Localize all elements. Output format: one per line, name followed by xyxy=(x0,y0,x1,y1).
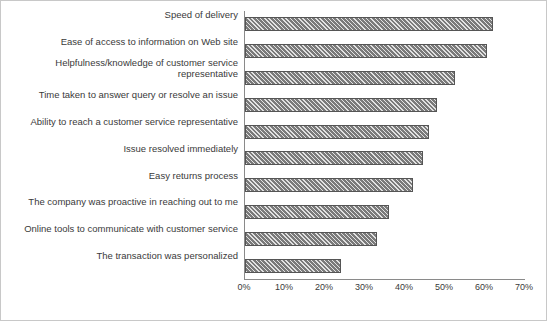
x-tick-label: 20% xyxy=(315,282,333,292)
bar xyxy=(245,178,413,192)
bar-series xyxy=(245,11,525,279)
category-row: Helpfulness/knowledge of customer servic… xyxy=(1,55,244,82)
bar xyxy=(245,98,437,112)
x-tick-label: 70% xyxy=(515,282,533,292)
category-label: Time taken to answer query or resolve an… xyxy=(39,89,244,100)
category-row: Time taken to answer query or resolve an… xyxy=(1,81,244,108)
category-label: The company was proactive in reaching ou… xyxy=(28,196,244,207)
x-tick-label: 30% xyxy=(355,282,373,292)
bar-row xyxy=(245,172,525,199)
category-label: Online tools to communicate with custome… xyxy=(24,223,244,234)
category-label: The transaction was personalized xyxy=(96,250,244,261)
category-row: Speed of delivery xyxy=(1,1,244,28)
bar xyxy=(245,205,389,219)
category-row: Issue resolved immediately xyxy=(1,135,244,162)
x-tick-label: 10% xyxy=(275,282,293,292)
category-row: Easy returns process xyxy=(1,162,244,189)
bar-row xyxy=(245,91,525,118)
category-row: Online tools to communicate with custome… xyxy=(1,215,244,242)
category-label: Helpfulness/knowledge of customer servic… xyxy=(55,57,244,79)
bar xyxy=(245,259,341,273)
bar xyxy=(245,17,493,31)
category-label: Ease of access to information on Web sit… xyxy=(61,36,244,47)
x-tick-label: 40% xyxy=(395,282,413,292)
category-row: Ease of access to information on Web sit… xyxy=(1,28,244,55)
bar xyxy=(245,125,429,139)
bar-row xyxy=(245,225,525,252)
x-tick-label: 0% xyxy=(237,282,250,292)
category-label: Issue resolved immediately xyxy=(123,143,244,154)
bar-row xyxy=(245,199,525,226)
bar-row xyxy=(245,252,525,279)
category-label: Easy returns process xyxy=(149,170,244,181)
x-axis-tick-labels: 0%10%20%30%40%50%60%70% xyxy=(244,282,525,298)
bar xyxy=(245,151,423,165)
bar xyxy=(245,232,377,246)
category-row: The company was proactive in reaching ou… xyxy=(1,189,244,216)
bar-row xyxy=(245,118,525,145)
bar-row xyxy=(245,65,525,92)
bar-row xyxy=(245,38,525,65)
category-row: Ability to reach a customer service repr… xyxy=(1,108,244,135)
x-tick-label: 60% xyxy=(475,282,493,292)
bar-chart: Speed of delivery Ease of access to info… xyxy=(0,0,547,321)
bar-row xyxy=(245,145,525,172)
bar xyxy=(245,71,455,85)
x-axis-line xyxy=(244,279,525,280)
bar xyxy=(245,44,487,58)
category-row: The transaction was personalized xyxy=(1,242,244,269)
category-label: Ability to reach a customer service repr… xyxy=(30,116,244,127)
x-tick-label: 50% xyxy=(435,282,453,292)
bar-row xyxy=(245,11,525,38)
category-label-column: Speed of delivery Ease of access to info… xyxy=(1,1,244,269)
category-label: Speed of delivery xyxy=(165,9,244,20)
